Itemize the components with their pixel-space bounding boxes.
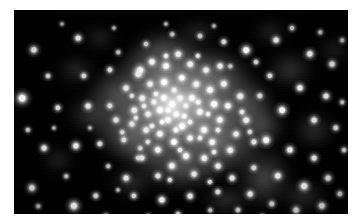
cluster-star: [191, 103, 208, 120]
diffuse-glow-blob: [84, 66, 152, 126]
cluster-star: [142, 76, 158, 92]
cluster-star: [138, 122, 154, 138]
cluster-star: [222, 142, 239, 159]
cluster-star: [211, 111, 228, 128]
field-star: [70, 30, 86, 46]
diffuse-glow-layer: [14, 10, 348, 214]
diffuse-glow-blob: [174, 96, 234, 148]
cluster-star: [138, 100, 151, 113]
cluster-star: [177, 109, 191, 123]
cluster-star: [143, 53, 160, 70]
field-star: [85, 123, 95, 133]
cluster-star: [130, 66, 147, 83]
page-root: [0, 0, 356, 223]
field-star: [253, 89, 267, 103]
field-star: [333, 187, 347, 201]
field-star: [182, 188, 198, 204]
field-star: [131, 61, 150, 80]
diffuse-glow-blob: [264, 50, 316, 90]
cluster-star: [117, 133, 131, 147]
cluster-star: [150, 88, 163, 101]
field-star: [109, 23, 119, 33]
diffuse-glow-blob: [116, 38, 212, 102]
field-star: [281, 141, 298, 158]
diffuse-glow-blob: [292, 110, 336, 150]
field-star: [224, 60, 236, 72]
field-star: [25, 41, 42, 58]
cluster-star: [160, 50, 173, 63]
cluster-star: [204, 176, 216, 188]
diffuse-glow-blob: [115, 54, 239, 158]
diffuse-glow-blob: [136, 138, 228, 194]
cluster-star: [172, 90, 188, 106]
cluster-star: [232, 88, 249, 105]
diffuse-glow-blob: [40, 146, 76, 174]
field-star: [161, 19, 171, 29]
field-star: [268, 32, 284, 48]
cluster-star: [146, 94, 161, 109]
cluster-star: [168, 106, 185, 123]
cluster-star: [212, 58, 228, 74]
diffuse-glow-blob: [176, 18, 220, 46]
cluster-star: [177, 147, 195, 165]
cluster-star: [210, 158, 226, 174]
field-star: [127, 189, 141, 203]
cluster-star: [219, 97, 236, 114]
cluster-star: [142, 136, 154, 148]
cluster-star: [174, 144, 187, 157]
field-star: [42, 70, 55, 83]
cluster-star: [156, 116, 169, 129]
cluster-star: [165, 133, 183, 151]
diffuse-glow-blob: [280, 178, 328, 214]
cluster-star: [191, 95, 205, 109]
diffuse-glow-blob: [250, 18, 290, 46]
field-star: [269, 167, 286, 184]
field-star: [288, 202, 304, 214]
field-star: [286, 22, 299, 35]
cluster-star: [126, 90, 138, 102]
field-star: [166, 28, 178, 40]
diffuse-glow-blob: [316, 34, 348, 66]
field-star: [80, 98, 96, 114]
cluster-star: [183, 89, 201, 107]
cluster-star: [182, 56, 199, 73]
field-star: [102, 160, 114, 172]
cluster-star: [168, 122, 183, 137]
field-star: [324, 56, 340, 72]
cluster-star: [202, 108, 215, 121]
cluster-star: [155, 73, 174, 92]
field-star: [118, 170, 134, 186]
cluster-star: [124, 116, 139, 131]
cluster-star: [140, 106, 156, 122]
field-star: [22, 124, 34, 136]
diffuse-glow-blob: [82, 24, 118, 52]
cluster-star: [103, 99, 117, 113]
field-star: [336, 96, 348, 108]
field-star: [51, 101, 65, 115]
cluster-core-star-layer: [14, 10, 348, 214]
field-star: [77, 69, 91, 83]
field-star: [64, 196, 84, 214]
field-star: [67, 137, 84, 154]
field-star: [250, 56, 263, 69]
diffuse-glow-blob: [116, 120, 176, 168]
cluster-star: [173, 69, 190, 86]
cluster-star: [208, 146, 221, 159]
diffuse-glow-blob: [136, 70, 212, 138]
cluster-star: [215, 75, 232, 92]
field-star: [60, 170, 72, 182]
cluster-star: [151, 125, 168, 142]
field-star: [295, 177, 314, 196]
cluster-star: [146, 120, 159, 133]
diffuse-glow-blob: [170, 50, 250, 110]
cluster-star: [118, 80, 134, 96]
diffuse-glow-blob: [108, 164, 156, 200]
cluster-star: [130, 112, 142, 124]
field-star: [306, 112, 322, 128]
cluster-star: [150, 168, 165, 183]
field-star: [49, 123, 59, 133]
cluster-star: [163, 157, 180, 174]
field-star: [237, 41, 256, 60]
field-star: [314, 26, 326, 38]
cluster-star: [201, 81, 219, 99]
